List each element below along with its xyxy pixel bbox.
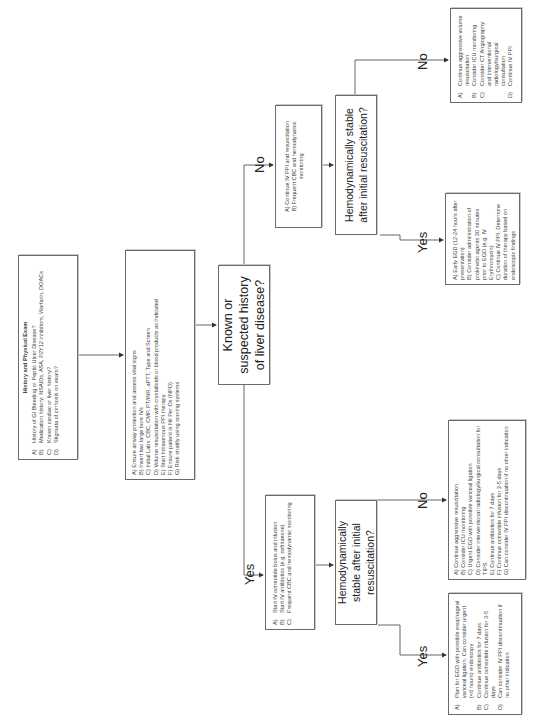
no-liver-stable-box: A) Early EGD (12-24 hours after presenta… bbox=[445, 193, 520, 285]
list-item: A) Early EGD (12-24 hours after presenta… bbox=[452, 198, 466, 280]
yes-label-liver: Yes bbox=[242, 564, 257, 585]
list-item: A)Plan for EGD with possible esophageal … bbox=[454, 598, 476, 710]
list-item: A)Continue aggressive volume resuscitati… bbox=[457, 13, 471, 98]
list-item: C) Initial Labs: CBC, CMP, PT/INR, aPTT,… bbox=[145, 255, 152, 475]
no-label-liver: No bbox=[252, 156, 267, 173]
list-item: E) Start Intravenous PPI therapy bbox=[160, 255, 167, 475]
list-item: D)Continue IV PPI bbox=[507, 13, 514, 98]
liver-hemodynamic-decision: Hemodynamically stable after initial res… bbox=[335, 500, 377, 625]
no-liver-unstable-box: A)Continue aggressive volume resuscitati… bbox=[450, 8, 522, 103]
list-item: A) Ensure airway protection and assess v… bbox=[131, 255, 138, 475]
list-item: C)Consider CT Angiography and interventi… bbox=[479, 13, 508, 98]
yes-label-lower-hemo: Yes bbox=[415, 646, 430, 667]
list-item: B)Consider ICU monitoring bbox=[471, 13, 478, 98]
list-item: B)Continue antibiotics for 7 days bbox=[476, 598, 483, 710]
list-item: B) Insert two large bore IVs bbox=[138, 255, 145, 475]
flowchart-canvas: History and Physical Exam A)History of G… bbox=[0, 0, 544, 725]
list-item: C)Continue octreotide infusion for 3-5 d… bbox=[483, 598, 497, 710]
no-label-lower-hemo: No bbox=[415, 492, 430, 509]
initial-management-box: A) Ensure airway protection and assess v… bbox=[125, 250, 195, 480]
list-item: G) Risk stratify using scoring systems bbox=[174, 255, 181, 475]
list-item: A)Start IV octreotide bolus and infusion bbox=[272, 500, 279, 625]
liver-disease-decision: Known or suspected history of liver dise… bbox=[218, 265, 270, 385]
yes-label-top-hemo: Yes bbox=[415, 232, 430, 253]
liver-unstable-box: A) Continue aggressive resuscitation B) … bbox=[448, 420, 526, 580]
list-item: B)Start IV antibiotics (e.g. ceftriaxone… bbox=[279, 500, 286, 625]
list-item: C) Continue IV PPI. Determine duration o… bbox=[495, 198, 517, 280]
liver-management-box: A)Start IV octreotide bolus and infusion… bbox=[265, 495, 315, 630]
list-item: D) Consider interventional radiology/sur… bbox=[475, 425, 489, 575]
list-item: B) Consider administration of prokinetic… bbox=[466, 198, 495, 280]
list-item: D)Can consider IV PPI discontinuation if… bbox=[497, 598, 511, 710]
list-item: B) Frequent CBC and hemodynamic monitori… bbox=[291, 110, 305, 223]
list-item: F) Ensure patient is Nil Per Os (NPO) bbox=[167, 255, 174, 475]
list-item: A) Continue IV PPI and resuscitation bbox=[284, 110, 291, 223]
list-item: G) Can consider IV PPI discontinuation i… bbox=[503, 425, 510, 575]
history-title: History and Physical Exam bbox=[22, 260, 29, 455]
list-item: D)Stigmata of cirrhosis on exam? bbox=[53, 260, 60, 455]
list-item: A)History of GI Bleeding or Peptic Ulcer… bbox=[31, 260, 38, 455]
list-item: C)Known cardiac or liver history? bbox=[46, 260, 53, 455]
liver-stable-box: A)Plan for EGD with possible esophageal … bbox=[448, 593, 522, 715]
list-item: C)Frequent CBC and hemodynamic monitorin… bbox=[286, 500, 293, 625]
list-item: F) Continue octreotide infusion for 3-5 … bbox=[496, 425, 503, 575]
history-physical-box: History and Physical Exam A)History of G… bbox=[18, 255, 78, 460]
no-liver-hemodynamic-decision: Hemodynamically stable after initial res… bbox=[335, 95, 377, 235]
list-item: B)Medication history: NSAIDs, ASA, P2Y12… bbox=[38, 260, 45, 455]
list-item: A) Continue aggressive resuscitation bbox=[453, 425, 460, 575]
list-item: E) Continue antibiotics for 7 days bbox=[489, 425, 496, 575]
list-item: C) Urgent EGD with possible variceal lig… bbox=[467, 425, 474, 575]
no-label-top-hemo: No bbox=[415, 53, 430, 70]
list-item: D) Volume resuscitation with crystalloid… bbox=[153, 255, 160, 475]
no-liver-management-box: A) Continue IV PPI and resuscitation B) … bbox=[275, 105, 322, 228]
list-item: B) Consider ICU monitoring bbox=[460, 425, 467, 575]
